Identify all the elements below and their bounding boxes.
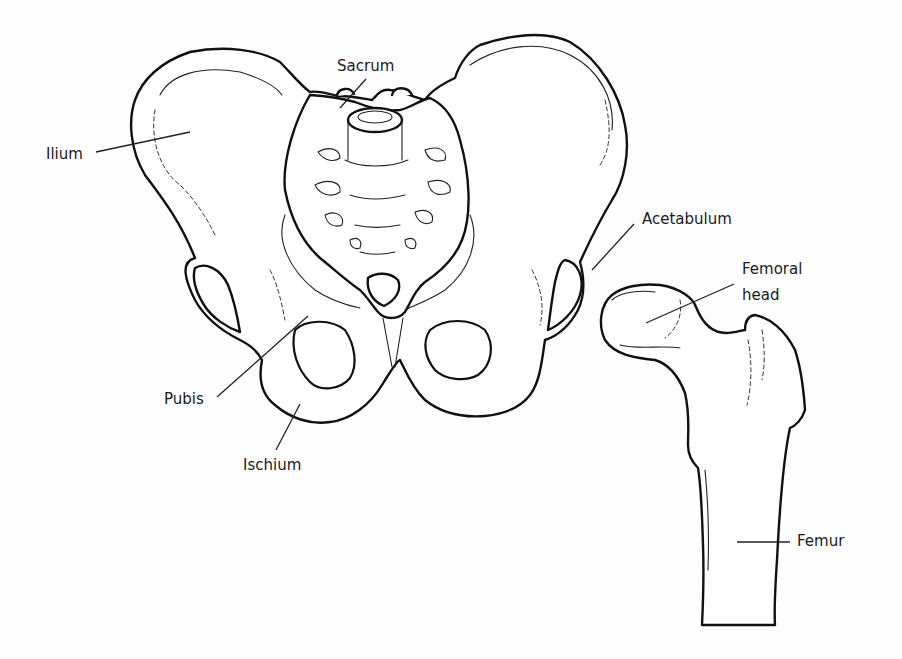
- leader-acetabulum: [592, 224, 634, 270]
- femur: [601, 284, 805, 625]
- label-femoral-head-line2: head: [742, 286, 779, 304]
- label-femur: Femur: [797, 532, 844, 550]
- label-acetabulum: Acetabulum: [642, 210, 732, 228]
- label-pubis: Pubis: [164, 390, 204, 408]
- label-ilium: Ilium: [46, 145, 83, 163]
- label-femoral-head-line1: Femoral: [742, 260, 802, 278]
- pelvis: [131, 35, 627, 423]
- label-ischium: Ischium: [243, 456, 301, 474]
- anatomy-diagram: Ilium Sacrum Acetabulum Femoral head Pub…: [0, 0, 902, 659]
- label-sacrum: Sacrum: [337, 57, 394, 75]
- pelvis-femur-illustration: [0, 0, 902, 659]
